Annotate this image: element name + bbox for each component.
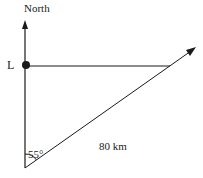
point-l-dot <box>22 61 30 69</box>
point-l-label: L <box>7 59 14 71</box>
angle-label: 55° <box>28 149 43 160</box>
bearing-arrow-icon <box>186 47 196 56</box>
north-label: North <box>24 3 50 14</box>
north-arrow-icon <box>22 20 28 29</box>
distance-label: 80 km <box>99 141 127 152</box>
